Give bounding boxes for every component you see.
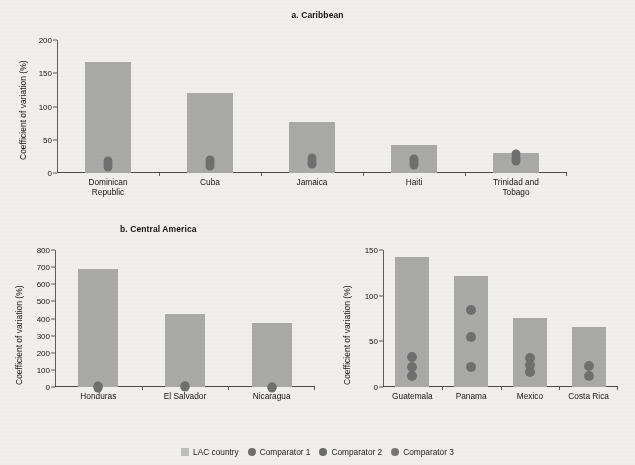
x-tick-label-line: Guatemala (392, 391, 433, 401)
y-tick-mark (53, 106, 57, 107)
x-tick-mark (261, 173, 262, 176)
x-tick-label: Cuba (200, 177, 220, 187)
legend-item: Comparator 3 (391, 447, 454, 457)
comparator-dot (466, 305, 476, 315)
y-tick-mark (379, 295, 383, 296)
panel-caribbean: a. Caribbean Coefficient of variation (%… (0, 0, 635, 205)
x-tick-label-line: Costa Rica (568, 391, 609, 401)
panel-a-ylabel: Coefficient of variation (%) (18, 60, 28, 160)
y-tick-mark (53, 40, 57, 41)
y-tick-mark (53, 173, 57, 174)
x-tick-label: Trinidad andTobago (493, 177, 539, 197)
legend-label: Comparator 1 (260, 447, 311, 457)
x-tick-mark (559, 387, 560, 390)
comparator-dot (308, 160, 317, 169)
legend-label: LAC country (193, 447, 239, 457)
x-tick-label: Mexico (517, 391, 543, 401)
x-tick-mark (314, 387, 315, 390)
y-tick-mark (51, 369, 55, 370)
legend-circle-icon (319, 448, 327, 456)
x-tick-label: Honduras (80, 391, 116, 401)
x-tick-label-line: Cuba (200, 177, 220, 187)
x-tick-label-line: Tobago (493, 187, 539, 197)
comparator-dot (407, 371, 417, 381)
panel-central-america-right: Coefficient of variation (%) 050100150Gu… (330, 205, 635, 430)
y-tick-mark (51, 284, 55, 285)
x-tick-mark (363, 173, 364, 176)
y-axis-line (57, 40, 58, 173)
comparator-dot (584, 371, 594, 381)
y-tick-mark (379, 250, 383, 251)
x-tick-mark (159, 173, 160, 176)
y-tick-mark (51, 352, 55, 353)
x-tick-label: Jamaica (297, 177, 328, 187)
panel-b-left-ylabel: Coefficient of variation (%) (14, 285, 24, 385)
legend-item: LAC country (181, 447, 239, 457)
y-tick-mark (51, 335, 55, 336)
x-tick-label-line: El Salvador (164, 391, 206, 401)
y-tick-mark (379, 341, 383, 342)
x-tick-label: Costa Rica (568, 391, 609, 401)
x-tick-label: Haiti (406, 177, 423, 187)
comparator-dot (94, 383, 103, 392)
x-tick-label-line: Dominican (88, 177, 127, 187)
x-tick-mark (442, 387, 443, 390)
legend-item: Comparator 1 (248, 447, 311, 457)
x-tick-label: Panama (456, 391, 487, 401)
x-tick-label-line: Republic (88, 187, 127, 197)
panel-b-left-plot: 0100200300400500600700800HondurasEl Salv… (55, 250, 315, 387)
legend-circle-icon (248, 448, 256, 456)
x-tick-mark (465, 173, 466, 176)
x-tick-mark (501, 387, 502, 390)
legend-label: Comparator 2 (331, 447, 382, 457)
x-tick-label: El Salvador (164, 391, 206, 401)
legend-item: Comparator 2 (319, 447, 382, 457)
legend-label: Comparator 3 (403, 447, 454, 457)
x-tick-label-line: Honduras (80, 391, 116, 401)
y-axis-line (383, 250, 384, 387)
y-tick-mark (379, 387, 383, 388)
y-axis-line (55, 250, 56, 387)
x-tick-label: DominicanRepublic (88, 177, 127, 197)
x-tick-label-line: Jamaica (297, 177, 328, 187)
x-tick-label-line: Mexico (517, 391, 543, 401)
x-tick-mark (142, 387, 143, 390)
comparator-dot (512, 156, 521, 165)
panel-b-right-plot: 050100150GuatemalaPanamaMexicoCosta Rica (383, 250, 618, 387)
panel-a-title: a. Caribbean (0, 10, 635, 20)
comparator-dot (407, 352, 417, 362)
x-tick-label-line: Trinidad and (493, 177, 539, 187)
bar (78, 269, 118, 387)
comparator-dot (267, 384, 276, 393)
y-tick-mark (51, 267, 55, 268)
bar (165, 314, 205, 387)
y-tick-mark (53, 73, 57, 74)
x-tick-mark (566, 173, 567, 176)
legend-square-icon (181, 448, 189, 456)
y-tick-mark (51, 318, 55, 319)
x-tick-label-line: Panama (456, 391, 487, 401)
x-tick-mark (617, 387, 618, 390)
y-tick-mark (51, 301, 55, 302)
panel-b-right-ylabel: Coefficient of variation (%) (342, 285, 352, 385)
comparator-dot (206, 161, 215, 170)
x-tick-mark (228, 387, 229, 390)
comparator-dot (104, 162, 113, 171)
comparator-dot (466, 332, 476, 342)
panel-a-plot: 050100150200DominicanRepublicCubaJamaica… (57, 40, 567, 173)
panel-central-america-left: b. Central America Coefficient of variat… (0, 205, 330, 430)
y-tick-mark (53, 139, 57, 140)
comparator-dot (525, 367, 535, 377)
y-tick-mark (51, 250, 55, 251)
comparator-dot (181, 383, 190, 392)
comparator-dot (466, 362, 476, 372)
y-tick-mark (51, 387, 55, 388)
figure-canvas: a. Caribbean Coefficient of variation (%… (0, 0, 635, 465)
comparator-dot (410, 160, 419, 169)
legend-circle-icon (391, 448, 399, 456)
x-tick-label-line: Haiti (406, 177, 423, 187)
bar (252, 323, 292, 387)
x-tick-label: Guatemala (392, 391, 433, 401)
legend: LAC countryComparator 1Comparator 2Compa… (0, 447, 635, 457)
